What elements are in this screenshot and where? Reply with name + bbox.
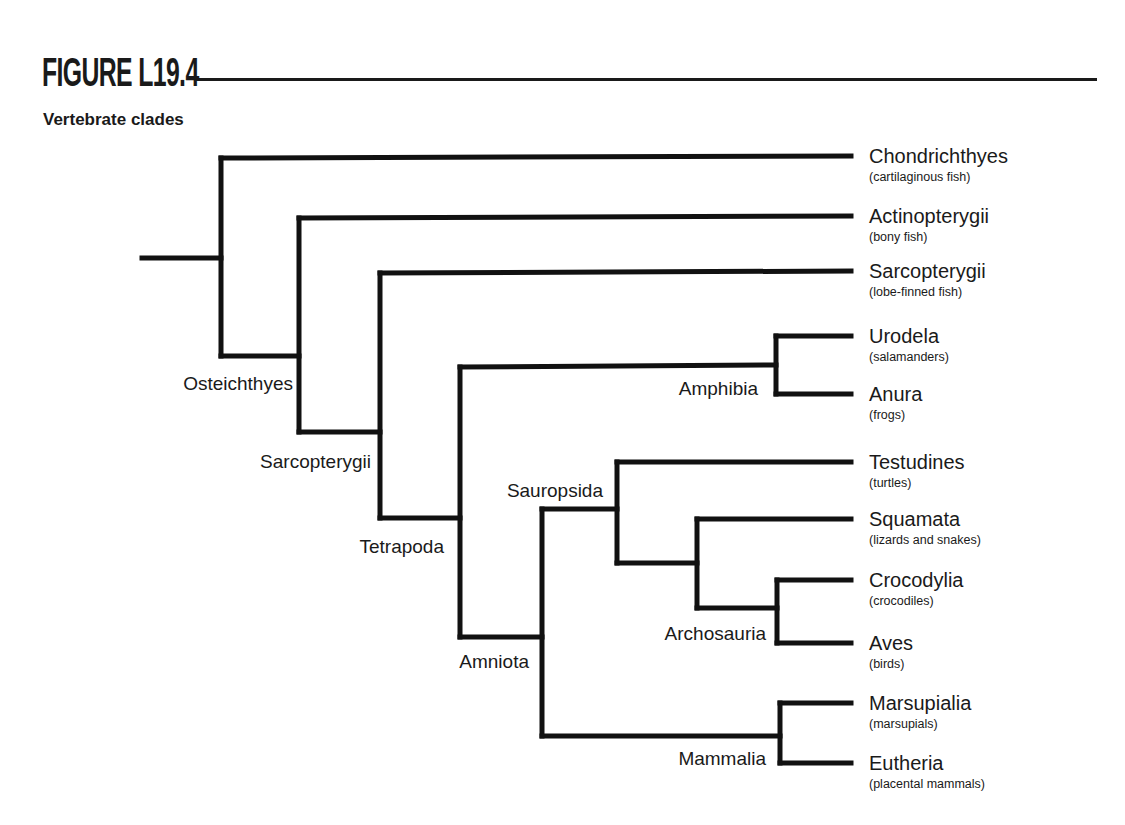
branch-line — [380, 271, 851, 273]
clade-label-archosauria: Archosauria — [665, 623, 767, 644]
clade-label-sauropsida: Sauropsida — [507, 480, 604, 501]
leaf-common-name: (placental mammals) — [869, 777, 985, 791]
leaf-common-name: (turtles) — [869, 476, 911, 490]
clade-label-osteichthyes: Osteichthyes — [183, 373, 293, 394]
leaf-sarcopterygii: Sarcopterygii(lobe-finned fish) — [869, 260, 986, 299]
leaf-name: Crocodylia — [869, 569, 964, 591]
leaf-name: Aves — [869, 632, 913, 654]
leaf-crocodylia: Crocodylia(crocodiles) — [869, 569, 964, 608]
leaf-actinopterygii: Actinopterygii(bony fish) — [869, 205, 989, 244]
leaf-common-name: (birds) — [869, 657, 904, 671]
cladogram-leaf-labels: Chondrichthyes(cartilaginous fish)Actino… — [869, 145, 1008, 791]
leaf-name: Squamata — [869, 508, 961, 530]
leaf-squamata: Squamata(lizards and snakes) — [869, 508, 981, 547]
leaf-common-name: (cartilaginous fish) — [869, 170, 970, 184]
leaf-common-name: (lizards and snakes) — [869, 533, 981, 547]
leaf-name: Anura — [869, 383, 923, 405]
clade-label-amniota: Amniota — [459, 651, 529, 672]
cladogram-clade-labels: OsteichthyesSarcopterygiiTetrapodaAmphib… — [183, 373, 766, 769]
cladogram: Chondrichthyes(cartilaginous fish)Actino… — [0, 0, 1125, 825]
clade-label-tetrapoda: Tetrapoda — [359, 536, 444, 557]
branch-line — [299, 216, 851, 218]
leaf-testudines: Testudines(turtles) — [869, 451, 965, 490]
leaf-common-name: (lobe-finned fish) — [869, 285, 962, 299]
leaf-common-name: (crocodiles) — [869, 594, 934, 608]
leaf-aves: Aves(birds) — [869, 632, 913, 671]
leaf-name: Actinopterygii — [869, 205, 989, 227]
leaf-marsupialia: Marsupialia(marsupials) — [869, 692, 972, 731]
leaf-chondrichthyes: Chondrichthyes(cartilaginous fish) — [869, 145, 1008, 184]
leaf-anura: Anura(frogs) — [869, 383, 923, 422]
leaf-name: Urodela — [869, 325, 940, 347]
leaf-common-name: (salamanders) — [869, 350, 949, 364]
branch-line — [221, 156, 851, 158]
branch-line — [460, 365, 776, 367]
leaf-common-name: (bony fish) — [869, 230, 927, 244]
leaf-urodela: Urodela(salamanders) — [869, 325, 949, 364]
leaf-common-name: (frogs) — [869, 408, 905, 422]
leaf-name: Sarcopterygii — [869, 260, 986, 282]
clade-label-mammalia: Mammalia — [678, 748, 766, 769]
leaf-eutheria: Eutheria(placental mammals) — [869, 752, 985, 791]
leaf-name: Marsupialia — [869, 692, 972, 714]
clade-label-sarcopterygii: Sarcopterygii — [260, 451, 371, 472]
leaf-common-name: (marsupials) — [869, 717, 938, 731]
leaf-name: Eutheria — [869, 752, 944, 774]
leaf-name: Chondrichthyes — [869, 145, 1008, 167]
clade-label-amphibia: Amphibia — [679, 378, 759, 399]
leaf-name: Testudines — [869, 451, 965, 473]
